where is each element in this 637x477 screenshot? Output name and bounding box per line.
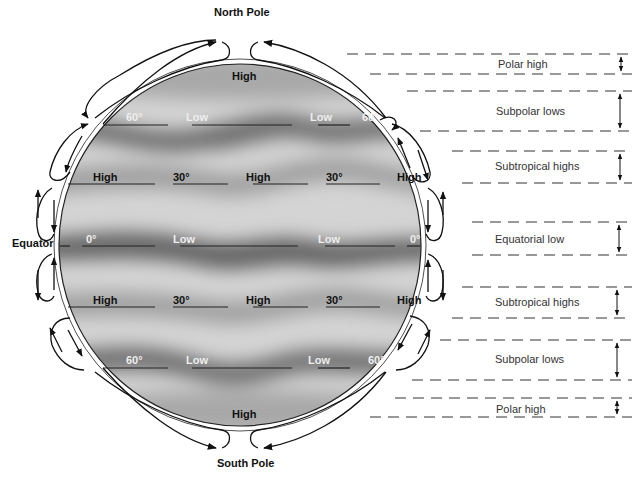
- low-60s-1: Low: [186, 354, 208, 366]
- polar-cell-ne-tip: [380, 117, 396, 130]
- band-label-equatorial-low: Equatorial low: [495, 233, 564, 245]
- low-60n-1: Low: [186, 111, 208, 123]
- pressure-belts-diagram: High High 60° Low Low 60° High 30° High …: [0, 0, 637, 477]
- high-30n-2: High: [246, 171, 271, 183]
- hadley-cell-sw: [37, 254, 54, 301]
- lat-60s-label: 60°: [126, 354, 143, 366]
- north-pole-label: North Pole: [214, 6, 270, 18]
- hadley-cell-nw: [37, 188, 54, 241]
- equator-label: Equator: [12, 237, 54, 249]
- south-polar-high-label: High: [232, 408, 257, 420]
- globe: [40, 56, 440, 434]
- lat-30n-label-2: 30°: [326, 171, 343, 183]
- lat-30n-label: 30°: [173, 171, 190, 183]
- south-pole-label: South Pole: [217, 457, 274, 469]
- band-label-polar-high-s: Polar high: [496, 403, 546, 415]
- lat-30s-label: 30°: [173, 294, 190, 306]
- band-label-polar-high-n: Polar high: [498, 58, 548, 70]
- band-labels: Polar high Subpolar lows Subtropical hig…: [495, 58, 580, 415]
- ferrel-cell-sw-arrow1: [50, 328, 62, 352]
- lat-0-right-label: 0°: [410, 233, 421, 245]
- low-60n-2: Low: [310, 111, 332, 123]
- low-eq-2: Low: [318, 233, 340, 245]
- band-label-subpolar-lows-s: Subpolar lows: [495, 353, 565, 365]
- band-label-subtropical-highs-n: Subtropical highs: [495, 160, 580, 172]
- lat-0-label: 0°: [86, 233, 97, 245]
- ferrel-cell-sw-arrow2: [68, 330, 82, 356]
- band-label-subtropical-highs-s: Subtropical highs: [495, 296, 580, 308]
- high-30s-2: High: [246, 294, 271, 306]
- north-polar-high-label: High: [232, 70, 257, 82]
- lat-60n-label: 60°: [126, 111, 143, 123]
- high-30s-1: High: [93, 294, 118, 306]
- high-30s-3: High: [397, 294, 422, 306]
- low-eq-1: Low: [173, 233, 195, 245]
- band-label-subpolar-lows-n: Subpolar lows: [496, 105, 566, 117]
- high-30n-1: High: [93, 171, 118, 183]
- lat-60s-right-label: 60°: [368, 354, 385, 366]
- band-extent-arrows: [617, 57, 621, 414]
- low-60s-2: Low: [308, 354, 330, 366]
- lat-60n-right-label: 60°: [362, 111, 379, 123]
- lat-30s-label-2: 30°: [326, 294, 343, 306]
